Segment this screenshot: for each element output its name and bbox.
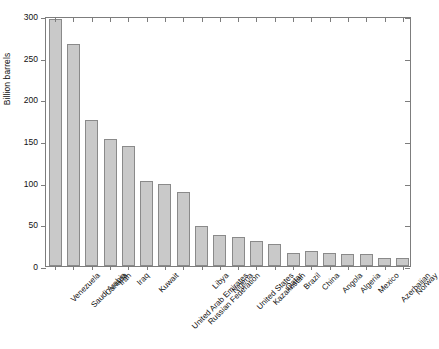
x-axis-tick-top (293, 18, 294, 22)
x-axis-tick (55, 266, 56, 270)
bar (122, 146, 135, 266)
x-axis-tick (366, 266, 367, 270)
bar (323, 253, 336, 266)
x-axis-tick-top (366, 18, 367, 22)
bar (67, 44, 80, 266)
x-axis-tick-top (220, 18, 221, 22)
bar (49, 19, 62, 267)
bar (360, 254, 373, 266)
bar (378, 258, 391, 266)
figure-caption (4, 341, 424, 349)
y-axis-tick-right (405, 268, 410, 269)
y-axis-tick-label: 300 (24, 12, 38, 22)
y-axis-tick-label: 0 (33, 262, 38, 272)
y-axis-tick-label: 150 (24, 137, 38, 147)
x-axis-tick (385, 266, 386, 270)
x-axis-tick (92, 266, 93, 270)
x-axis-tick (220, 266, 221, 270)
x-axis-tick-top (256, 18, 257, 22)
x-axis-tick (403, 266, 404, 270)
x-axis-tick-top (165, 18, 166, 22)
bar (177, 192, 190, 266)
bar (140, 181, 153, 266)
x-axis-tick (311, 266, 312, 270)
x-axis-tick (275, 266, 276, 270)
x-axis-tick-top (92, 18, 93, 22)
y-axis-label: Billion barrels (2, 34, 16, 124)
x-axis-tick-top (330, 18, 331, 22)
x-axis-tick-top (385, 18, 386, 22)
x-axis-tick (128, 266, 129, 270)
x-axis-tick-top (73, 18, 74, 22)
y-axis-tick-right (405, 60, 410, 61)
bar (232, 237, 245, 266)
x-axis-tick (147, 266, 148, 270)
x-axis-tick-top (55, 18, 56, 22)
x-axis-tick-top (183, 18, 184, 22)
x-axis-tick-label: China (320, 271, 341, 292)
y-axis-tick: 50 (41, 226, 46, 227)
plot-area: 050100150200250300 (45, 17, 411, 267)
x-axis-tick-top (311, 18, 312, 22)
y-axis-tick-label: 200 (24, 95, 38, 105)
y-axis-tick: 300 (41, 18, 46, 19)
x-axis-tick-top (275, 18, 276, 22)
bar-series (46, 18, 410, 266)
y-axis-tick: 150 (41, 143, 46, 144)
x-axis-tick-top (128, 18, 129, 22)
x-axis-tick (110, 266, 111, 270)
x-axis-tick-top (403, 18, 404, 22)
bar (213, 235, 226, 266)
bar (85, 120, 98, 266)
y-axis-tick-right (405, 226, 410, 227)
y-axis-tick-right (405, 18, 410, 19)
y-axis-tick-label: 250 (24, 54, 38, 64)
x-axis-tick-label: Kuwait (157, 271, 180, 294)
x-axis-tick (73, 266, 74, 270)
x-axis-tick-label: Iraq (135, 271, 151, 287)
x-axis-tick (330, 266, 331, 270)
bar (158, 184, 171, 266)
x-axis-tick (293, 266, 294, 270)
y-axis-tick-right (405, 101, 410, 102)
x-axis-tick-top (202, 18, 203, 22)
x-axis-tick-top (348, 18, 349, 22)
y-axis-tick: 0 (41, 268, 46, 269)
bar (250, 241, 263, 266)
bar (268, 244, 281, 266)
y-axis-tick-label: 100 (24, 179, 38, 189)
y-axis-tick-right (405, 185, 410, 186)
x-axis-tick (202, 266, 203, 270)
x-axis-tick-top (147, 18, 148, 22)
bar (305, 251, 318, 266)
y-axis-tick-right (405, 143, 410, 144)
x-axis-tick-top (110, 18, 111, 22)
y-axis-tick: 250 (41, 60, 46, 61)
x-axis-tick (183, 266, 184, 270)
y-axis-tick-label: 50 (29, 220, 38, 230)
x-axis-tick (348, 266, 349, 270)
x-axis-tick-top (238, 18, 239, 22)
bar (341, 254, 354, 267)
y-axis-tick: 100 (41, 185, 46, 186)
x-axis-tick (256, 266, 257, 270)
y-axis-tick: 200 (41, 101, 46, 102)
bar (287, 253, 300, 266)
bar (104, 139, 117, 266)
x-axis-tick (238, 266, 239, 270)
x-axis-tick (165, 266, 166, 270)
x-axis-tick-label: Brazil (302, 271, 323, 292)
bar (396, 258, 409, 266)
bar (195, 226, 208, 266)
